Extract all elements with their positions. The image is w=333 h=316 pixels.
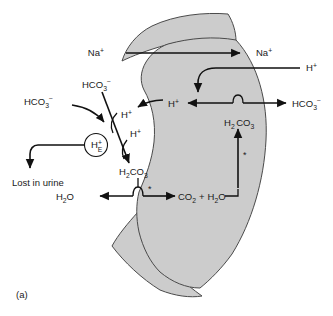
label-carbonic-acid-lumen: H2CO3 xyxy=(119,166,148,179)
label-proton-lumen-lower: H+ xyxy=(130,128,141,140)
label-sodium-cell: Na+ xyxy=(256,47,272,59)
cell-main-body xyxy=(137,38,267,288)
enzyme-marker-cell: * xyxy=(243,150,247,160)
label-bicarbonate-left: HCO3− xyxy=(24,95,53,109)
figure-panel-a: Na+ Na+ H+ H+ HCO3− HCO3− HCO3− H+ xyxy=(0,0,333,316)
bicarbonate-left-to-acid-arrow xyxy=(72,105,104,122)
label-carbonic-acid-cell: H2CO3 xyxy=(224,117,254,130)
bicarbonate-upper-to-acid-arrow xyxy=(102,92,129,163)
label-lost-in-urine: Lost in urine xyxy=(12,177,64,188)
label-proton-blood: H+ xyxy=(306,62,317,74)
label-water-lumen: H2O xyxy=(56,191,74,204)
label-bicarbonate-upper-left: HCO3− xyxy=(82,78,111,92)
panel-label: (a) xyxy=(16,289,28,300)
label-co2-plus-water-cell: CO2+H2O xyxy=(178,191,226,204)
label-sodium-lumen: Na+ xyxy=(88,47,104,59)
tubular-cell-acid-base-diagram: Na+ Na+ H+ H+ HCO3− HCO3− HCO3− H+ xyxy=(0,0,333,316)
label-proton-lumen-upper: H+ xyxy=(121,109,132,121)
buffer-excretion-arrow xyxy=(30,145,84,168)
enzyme-marker-lumen: * xyxy=(148,184,152,194)
label-bicarbonate-right: HCO3− xyxy=(292,97,321,111)
label-buffer-he: H+E xyxy=(91,139,103,153)
